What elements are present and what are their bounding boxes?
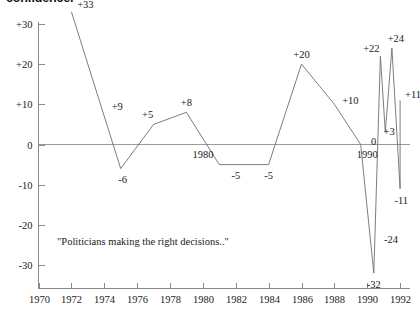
data-point-label: -6 <box>118 174 127 185</box>
x-tick-label: 1990 <box>357 294 378 305</box>
confidence-series-line <box>71 12 400 273</box>
x-tick-label: 1970 <box>29 294 50 305</box>
axes-group <box>39 22 411 289</box>
x-tick-label: 1992 <box>390 294 411 305</box>
x-tick-label: 1972 <box>61 294 82 305</box>
data-point-label: +22 <box>363 43 379 54</box>
x-tick-label: 1982 <box>226 294 247 305</box>
line-chart-svg: +30+20+100-10-20-30 19701972197419761978… <box>0 0 420 316</box>
chart-container: confidence. +30+20+100-10-20-30 19701972… <box>0 0 420 316</box>
inline-year-label: 1980 <box>192 149 213 160</box>
x-tick-label: 1986 <box>292 294 313 305</box>
quote-annotation: "Politicians making the right decisions.… <box>57 236 229 247</box>
inline-year-group: 19801990 <box>192 149 377 160</box>
x-tick-label: 1974 <box>94 294 116 305</box>
data-point-label: -24 <box>384 234 399 245</box>
x-tick-label: 1980 <box>193 294 214 305</box>
x-tick-group: 1970197219741976197819801982198419861988… <box>29 283 411 305</box>
data-point-label: -5 <box>231 170 240 181</box>
y-tick-label: +10 <box>16 99 32 110</box>
data-point-label: -32 <box>367 279 381 290</box>
x-tick-label: 1978 <box>160 294 181 305</box>
y-tick-label: -10 <box>19 180 33 191</box>
data-point-label: +10 <box>342 95 358 106</box>
data-point-label: +5 <box>142 109 153 120</box>
y-tick-label: 0 <box>27 140 32 151</box>
inline-year-label: 1990 <box>357 149 378 160</box>
y-tick-label: -30 <box>19 260 33 271</box>
x-tick-label: 1988 <box>324 294 345 305</box>
y-tick-label: -20 <box>19 220 33 231</box>
data-point-label: +9 <box>112 101 123 112</box>
data-point-label: 0 <box>371 136 376 147</box>
y-tick-label: +30 <box>16 19 32 30</box>
data-point-label: +20 <box>293 49 309 60</box>
x-tick-label: 1984 <box>259 294 281 305</box>
data-point-label: +33 <box>77 0 93 10</box>
data-point-label: +3 <box>384 126 395 137</box>
data-point-label: -5 <box>264 170 273 181</box>
x-tick-label: 1976 <box>127 294 148 305</box>
y-tick-label: +20 <box>16 59 32 70</box>
data-point-label: +8 <box>181 97 192 108</box>
y-tick-group: +30+20+100-10-20-30 <box>16 19 44 271</box>
data-point-label: +24 <box>388 33 405 44</box>
data-point-label: +11 <box>405 89 420 100</box>
data-point-label: -11 <box>394 195 408 206</box>
